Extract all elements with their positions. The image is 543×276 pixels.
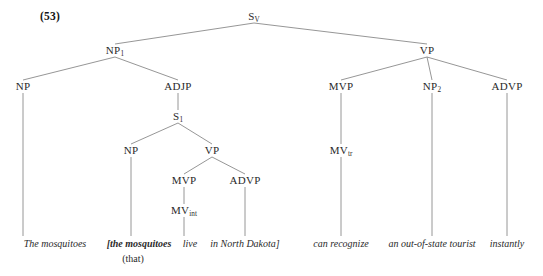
node-label-text: MV [171, 204, 189, 216]
tree-node-sv: SV [248, 10, 260, 22]
tree-node-np_a: NP [16, 80, 31, 92]
tree-edge-VP_emb-to-MVP_e [184, 157, 212, 174]
node-label-text: MVP [172, 174, 197, 186]
tree-edge-VP_emb-to-ADVP_e [212, 157, 245, 174]
node-label-text: ADVP [491, 80, 522, 92]
tree-node-mvp_e: MVP [172, 174, 197, 186]
node-label-subscript: tr [348, 150, 352, 158]
leaf-the-mosquitoes: The mosquitoes [24, 238, 87, 249]
tree-node-np1: NP1 [106, 44, 124, 56]
tree-node-np_b: NP [124, 144, 139, 156]
leaf-can-recognize: can recognize [313, 238, 368, 249]
node-label-text: NP [106, 44, 121, 56]
node-label-subscript: V [255, 16, 260, 24]
leaf-the-mosquitoes-t: [the mosquitoes [107, 238, 172, 249]
tree-edge-SV-to-VP_top [254, 23, 427, 44]
tree-node-advp_t: ADVP [491, 80, 522, 92]
tree-edge-S1-to-NP_b [131, 123, 178, 144]
leaf-instantly: instantly [490, 238, 524, 249]
tree-node-mvint: MVint [171, 204, 197, 216]
tree-edge-NP1-to-NP_a [23, 57, 115, 80]
tree-node-mvtr: MVtr [330, 144, 353, 156]
tree-edge-NP1-to-ADJP [115, 57, 178, 80]
node-label-subscript: 1 [179, 116, 183, 124]
tree-node-s1: S1 [173, 110, 183, 122]
tree-node-adjp: ADJP [164, 80, 192, 92]
leaf-tourist: an out-of-state tourist [388, 238, 475, 249]
tree-edge-VP_top-to-NP2 [427, 57, 432, 80]
leaf-in-north-dakota: in North Dakota] [210, 238, 279, 249]
node-label-subscript: 2 [438, 86, 442, 94]
tree-edge-S1-to-VP_emb [178, 123, 212, 144]
tree-edge-SV-to-NP1 [115, 23, 254, 44]
tree-edge-VP_top-to-ADVP_t [427, 57, 507, 80]
tree-node-np2: NP2 [423, 80, 441, 92]
node-label-subscript: int [189, 210, 197, 218]
node-label-text: NP [16, 80, 31, 92]
annotation-that: (that) [122, 253, 144, 264]
node-label-subscript: 1 [121, 50, 125, 58]
node-label-text: VP [205, 144, 220, 156]
syntax-tree-figure: (53) SVNP1VPNPADJPMVPNP2ADVPS1NPVPMVPADV… [0, 0, 543, 276]
tree-node-vp_emb: VP [205, 144, 220, 156]
edge-group [23, 23, 507, 236]
node-label-text: NP [124, 144, 139, 156]
node-label-text: ADVP [229, 174, 260, 186]
tree-node-mvp_t: MVP [329, 80, 354, 92]
tree-node-advp_e: ADVP [229, 174, 260, 186]
node-label-text: NP [423, 80, 438, 92]
tree-node-vp_top: VP [420, 44, 435, 56]
tree-edges-canvas [0, 0, 543, 276]
node-label-text: ADJP [164, 80, 192, 92]
node-label-text: VP [420, 44, 435, 56]
node-label-text: MV [330, 144, 348, 156]
node-label-text: MVP [329, 80, 354, 92]
leaf-live: live [183, 238, 197, 249]
tree-edge-VP_top-to-MVP_t [341, 57, 427, 80]
